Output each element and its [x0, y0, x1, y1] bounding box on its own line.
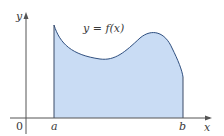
interval-left-label: a — [51, 121, 58, 132]
y-axis-label: y — [16, 11, 22, 22]
x-axis-label: x — [204, 122, 210, 133]
interval-right-label: b — [179, 121, 186, 132]
y-axis-arrow-icon — [24, 12, 29, 19]
shaded-area — [54, 25, 183, 118]
area-diagram — [0, 0, 224, 136]
origin-label: 0 — [16, 121, 23, 132]
curve-label: y = f(x) — [83, 23, 124, 34]
x-axis-arrow-icon — [205, 116, 212, 121]
